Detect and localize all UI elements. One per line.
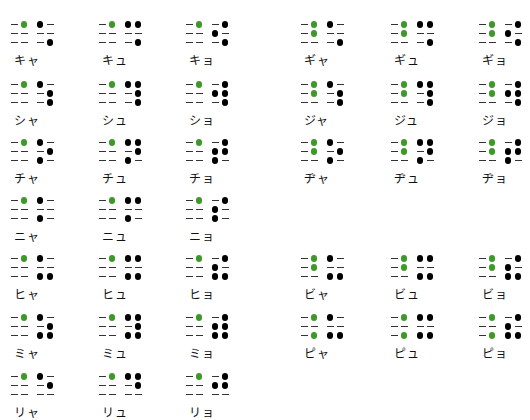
braille-prefix-cell <box>98 372 116 399</box>
braille-empty-6 <box>21 394 28 395</box>
braille-kana-cell <box>211 20 229 47</box>
braille-empty-1 <box>212 84 219 85</box>
braille-item: ギャ <box>300 20 360 68</box>
braille-kana-cell <box>416 138 434 165</box>
braille-item: ニュ <box>98 196 158 244</box>
braille-empty-6 <box>401 102 408 103</box>
braille-dot-6 <box>427 273 434 280</box>
braille-pattern <box>10 254 70 281</box>
braille-prefix-cell <box>185 20 203 47</box>
braille-pattern <box>10 313 70 340</box>
braille-dot-2 <box>212 148 219 155</box>
braille-dot-1 <box>327 21 334 28</box>
braille-empty-6 <box>109 335 116 336</box>
braille-dot-3 <box>37 273 44 280</box>
braille-empty-6 <box>222 394 229 395</box>
braille-pattern <box>98 372 158 399</box>
braille-empty-6 <box>47 160 54 161</box>
braille-dot-4 <box>427 314 434 321</box>
braille-empty-1 <box>11 24 18 25</box>
braille-dot-5 <box>337 148 344 155</box>
braille-empty-4 <box>337 142 344 143</box>
braille-kana-cell <box>416 20 434 47</box>
braille-kana-cell <box>211 313 229 340</box>
braille-empty-1 <box>212 200 219 201</box>
braille-prefix-cell <box>10 372 28 399</box>
braille-dot-4 <box>109 21 116 28</box>
braille-dot-2 <box>212 206 219 213</box>
braille-item: ピョ <box>478 313 530 361</box>
braille-empty-5 <box>196 151 203 152</box>
braille-empty-2 <box>479 151 486 152</box>
braille-dot-1 <box>417 21 424 28</box>
braille-empty-2 <box>479 33 486 34</box>
braille-dot-3 <box>212 215 219 222</box>
kana-label: ビュ <box>390 285 450 302</box>
kana-label: チョ <box>185 169 245 186</box>
braille-dot-4 <box>109 373 116 380</box>
braille-prefix-cell <box>300 138 318 165</box>
braille-dot-2 <box>505 148 512 155</box>
braille-empty-6 <box>21 218 28 219</box>
braille-dot-4 <box>401 81 408 88</box>
braille-empty-6 <box>109 160 116 161</box>
braille-empty-3 <box>11 335 18 336</box>
braille-empty-3 <box>11 218 18 219</box>
braille-kana-cell <box>416 254 434 281</box>
braille-empty-5 <box>21 33 28 34</box>
braille-empty-3 <box>391 335 398 336</box>
braille-kana-cell <box>211 254 229 281</box>
braille-empty-5 <box>109 151 116 152</box>
braille-dot-4 <box>21 373 28 380</box>
braille-dot-6 <box>337 39 344 46</box>
braille-pattern <box>98 196 158 223</box>
braille-pattern <box>185 313 245 340</box>
braille-empty-3 <box>37 42 44 43</box>
braille-empty-5 <box>21 93 28 94</box>
braille-dot-4 <box>489 255 496 262</box>
kana-label: チュ <box>98 169 158 186</box>
braille-empty-1 <box>11 317 18 318</box>
braille-kana-cell <box>36 254 54 281</box>
braille-dot-6 <box>222 39 229 46</box>
braille-kana-cell <box>504 254 522 281</box>
braille-empty-2 <box>391 33 398 34</box>
braille-empty-2 <box>11 151 18 152</box>
braille-empty-2 <box>417 93 424 94</box>
braille-kana-cell <box>326 20 344 47</box>
braille-prefix-cell <box>185 196 203 223</box>
braille-empty-5 <box>109 93 116 94</box>
braille-empty-3 <box>37 102 44 103</box>
braille-empty-6 <box>311 102 318 103</box>
braille-empty-3 <box>301 160 308 161</box>
braille-prefix-cell <box>10 313 28 340</box>
braille-empty-3 <box>99 218 106 219</box>
kana-label: ジャ <box>300 111 360 128</box>
braille-kana-cell <box>211 80 229 107</box>
braille-empty-2 <box>417 151 424 152</box>
braille-item: シュ <box>98 80 158 128</box>
braille-empty-4 <box>337 258 344 259</box>
braille-empty-3 <box>186 394 193 395</box>
braille-empty-3 <box>11 276 18 277</box>
braille-empty-6 <box>337 160 344 161</box>
braille-prefix-cell <box>185 80 203 107</box>
braille-empty-2 <box>327 267 334 268</box>
braille-dot-2 <box>212 264 219 271</box>
braille-kana-cell <box>124 313 142 340</box>
braille-dot-4 <box>515 21 522 28</box>
braille-empty-4 <box>47 258 54 259</box>
braille-empty-2 <box>11 326 18 327</box>
braille-empty-2 <box>99 267 106 268</box>
braille-empty-6 <box>21 102 28 103</box>
braille-empty-5 <box>337 326 344 327</box>
braille-empty-3 <box>186 42 193 43</box>
braille-empty-3 <box>99 160 106 161</box>
braille-prefix-cell <box>390 80 408 107</box>
braille-item: リュ <box>98 372 158 420</box>
braille-empty-6 <box>401 42 408 43</box>
braille-pattern <box>98 20 158 47</box>
braille-dot-4 <box>21 314 28 321</box>
braille-item: キョ <box>185 20 245 68</box>
braille-empty-6 <box>21 335 28 336</box>
